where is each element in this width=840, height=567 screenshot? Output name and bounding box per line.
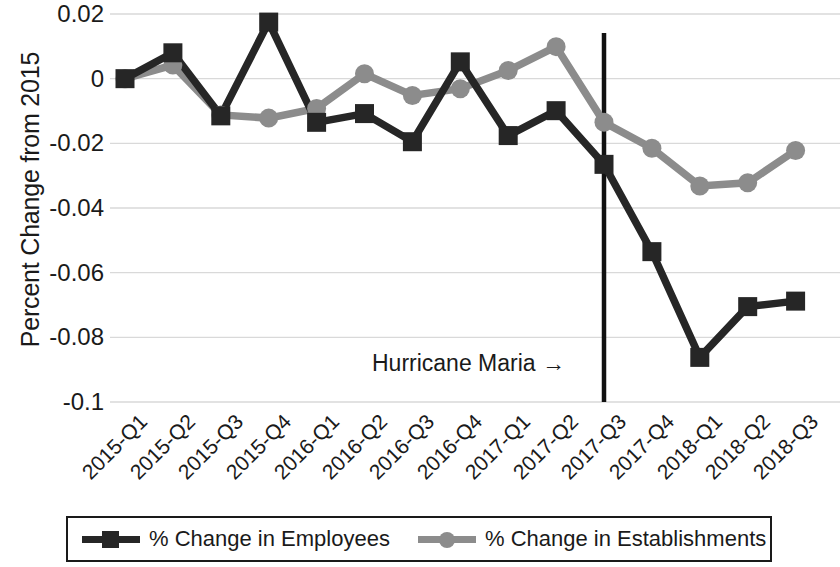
data-point-employees[interactable]	[786, 292, 805, 311]
legend-label-employees: % Change in Employees	[149, 527, 390, 551]
data-point-employees[interactable]	[307, 113, 326, 132]
data-point-establishments[interactable]	[642, 139, 661, 158]
data-point-establishments[interactable]	[595, 113, 614, 132]
x-axis-tick-label: 2015-Q4	[222, 410, 295, 483]
data-point-establishments[interactable]	[690, 177, 709, 196]
data-point-employees[interactable]	[499, 126, 518, 145]
data-point-employees[interactable]	[547, 101, 566, 120]
data-point-employees[interactable]	[355, 104, 374, 123]
legend-swatch-employees	[82, 527, 140, 551]
hurricane-maria-annotation: Hurricane Maria →	[372, 352, 565, 375]
data-point-employees[interactable]	[738, 297, 757, 316]
data-point-employees[interactable]	[403, 132, 422, 151]
x-axis-tick-label: 2016-Q1	[270, 410, 343, 483]
data-point-employees[interactable]	[690, 348, 709, 367]
x-axis-tick-label: 2016-Q4	[413, 410, 486, 483]
data-point-employees[interactable]	[259, 13, 278, 32]
x-axis-tick-label: 2017-Q4	[605, 410, 678, 483]
data-point-establishments[interactable]	[451, 79, 470, 98]
data-point-employees[interactable]	[211, 106, 230, 125]
data-point-establishments[interactable]	[259, 109, 278, 128]
data-point-establishments[interactable]	[499, 61, 518, 80]
data-point-establishments[interactable]	[786, 141, 805, 160]
data-point-employees[interactable]	[595, 155, 614, 174]
data-point-employees[interactable]	[451, 52, 470, 71]
x-axis-tick-label: 2018-Q1	[653, 410, 726, 483]
data-point-establishments[interactable]	[403, 86, 422, 105]
x-axis-tick-label: 2018-Q3	[749, 410, 822, 483]
x-axis-tick-label: 2015-Q3	[174, 410, 247, 483]
data-point-employees[interactable]	[163, 43, 182, 62]
x-axis-tick-label: 2017-Q3	[557, 410, 630, 483]
data-point-employees[interactable]	[642, 242, 661, 261]
x-axis-tick-label: 2015-Q1	[78, 410, 151, 483]
x-axis-tick-label: 2016-Q3	[365, 410, 438, 483]
legend-swatch-establishments	[418, 527, 476, 551]
x-axis-tick-label: 2017-Q1	[461, 410, 534, 483]
data-point-establishments[interactable]	[355, 64, 374, 83]
data-point-employees[interactable]	[116, 69, 135, 88]
chart-legend: % Change in Employees % Change in Establ…	[66, 516, 772, 562]
data-point-establishments[interactable]	[547, 37, 566, 56]
x-axis-tick-label: 2015-Q2	[126, 410, 199, 483]
legend-item-establishments[interactable]: % Change in Establishments	[418, 527, 766, 551]
x-axis-tick-label: 2017-Q2	[509, 410, 582, 483]
legend-item-employees[interactable]: % Change in Employees	[82, 527, 390, 551]
x-axis-tick-label: 2016-Q2	[318, 410, 391, 483]
data-point-establishments[interactable]	[738, 173, 757, 192]
x-axis-tick-label: 2018-Q2	[701, 410, 774, 483]
quarterly-percent-change-chart: Percent Change from 2015 0.020-0.02-0.04…	[0, 0, 840, 567]
legend-label-establishments: % Change in Establishments	[485, 527, 766, 551]
